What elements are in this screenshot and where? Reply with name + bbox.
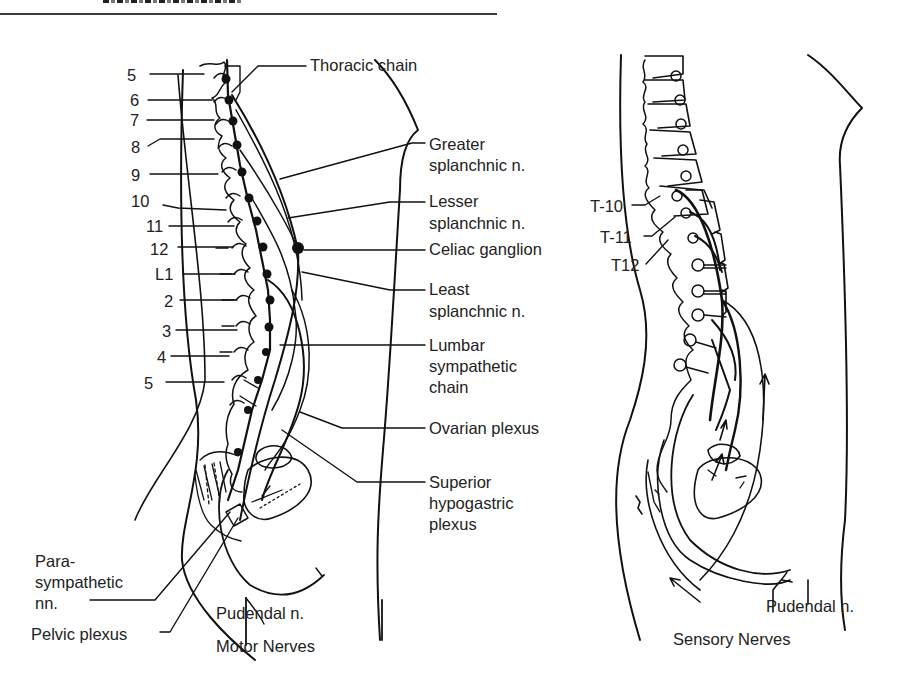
vertebra-label: 12	[150, 240, 168, 258]
sensory-panel-drawing	[616, 55, 862, 640]
vertebra-label: 10	[131, 192, 149, 210]
label-line: splanchnic n.	[429, 302, 525, 321]
label-line: Lumbar	[429, 336, 485, 355]
label-line: sympathetic	[35, 573, 123, 592]
label-line: chain	[429, 378, 468, 397]
vertebra-label: 4	[157, 348, 166, 366]
label-pelvic-plexus: Pelvic plexus	[31, 625, 127, 644]
vertebra-label: 6	[130, 91, 139, 109]
label-line: nn.	[35, 594, 58, 613]
label-line: hypogastric	[429, 494, 513, 513]
vertebra-label: 3	[162, 322, 171, 340]
caption-motor-nerves: Motor Nerves	[216, 637, 315, 656]
label-line: Para-	[35, 552, 75, 571]
label-celiac-ganglion: Celiac ganglion	[429, 240, 542, 259]
label-line: Greater	[429, 135, 485, 154]
label-line: Lesser	[429, 192, 479, 211]
label-line: splanchnic n.	[429, 156, 525, 175]
label-line: Superior	[429, 473, 491, 492]
label-line: plexus	[429, 515, 477, 534]
vertebra-label: 2	[164, 292, 173, 310]
vertebra-label: 9	[131, 166, 140, 184]
vertebra-label: L1	[155, 265, 173, 283]
label-thoracic-chain: Thoracic chain	[310, 56, 417, 75]
caption-sensory-nerves: Sensory Nerves	[673, 630, 790, 649]
vertebra-label: 5	[144, 374, 153, 392]
motor-panel-drawing	[90, 60, 425, 660]
label-t11: T-11	[600, 228, 632, 247]
vertebra-label: 8	[131, 138, 140, 156]
label-line: Least	[429, 280, 469, 299]
vertebra-label: 5	[127, 66, 136, 84]
vertebra-label: 11	[146, 217, 163, 235]
label-t10: T-10	[590, 197, 623, 216]
label-pudendal-nerve-sensory: Pudendal n.	[766, 597, 854, 616]
label-pudendal-nerve-motor: Pudendal n.	[216, 604, 304, 623]
vertebra-label: 7	[130, 111, 139, 129]
label-line: splanchnic n.	[429, 214, 525, 233]
label-t12: T12	[611, 256, 639, 275]
label-line: sympathetic	[429, 357, 517, 376]
label-ovarian-plexus: Ovarian plexus	[429, 419, 539, 438]
